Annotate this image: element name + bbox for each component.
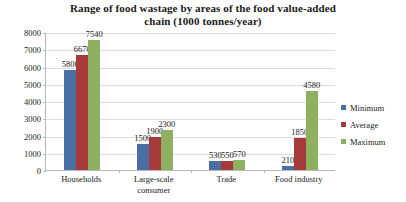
legend-swatch-icon <box>341 122 346 127</box>
y-axis-tick <box>43 154 46 155</box>
bar-value-label: 570 <box>222 149 256 159</box>
y-axis-tick <box>43 68 46 69</box>
y-axis-tick <box>43 137 46 138</box>
y-axis-tick-label: 8000 <box>3 28 41 38</box>
legend-swatch-icon <box>341 105 346 110</box>
x-axis-label-line: Households <box>61 174 101 184</box>
bar-average <box>294 138 306 170</box>
legend-label: Maximum <box>350 137 385 147</box>
x-axis-label-line: Large-scale <box>134 174 173 184</box>
y-axis-tick <box>43 85 46 86</box>
bar-minimum <box>209 161 221 170</box>
x-axis-label-line: consumer <box>137 185 170 195</box>
x-axis-tick <box>119 170 120 173</box>
bar-value-label: 2300 <box>150 119 184 129</box>
x-axis-label-line: Trade <box>216 174 236 184</box>
y-axis-tick-label: 3000 <box>3 114 41 124</box>
bar-average <box>149 137 161 170</box>
bar-minimum <box>64 70 76 170</box>
y-axis-tick <box>43 119 46 120</box>
bar-value-label: 4580 <box>295 80 329 90</box>
legend-swatch-icon <box>341 139 346 144</box>
chart-legend: MinimumAverageMaximum <box>341 101 403 152</box>
chart-title-line-2: chain (1000 tonnes/year) <box>144 15 261 27</box>
bar-average <box>221 161 233 170</box>
y-axis-tick-label: 7000 <box>3 45 41 55</box>
bar-minimum <box>282 166 294 170</box>
x-axis-category-label: Food industry <box>261 174 337 185</box>
bar-maximum <box>161 130 173 170</box>
y-axis-tick <box>43 171 46 172</box>
y-axis-tick <box>43 102 46 103</box>
bar-maximum <box>306 91 318 170</box>
legend-item[interactable]: Minimum <box>341 101 403 114</box>
plot-area: 5800667075401500190023005305505702101850… <box>45 33 335 171</box>
legend-item[interactable]: Maximum <box>341 135 403 148</box>
bar-group: 150019002300 <box>137 33 173 170</box>
legend-label: Average <box>350 120 378 130</box>
x-axis-category-label: Households <box>43 174 119 185</box>
y-axis-tick <box>43 50 46 51</box>
x-axis-category-label: Large-scaleconsumer <box>116 174 192 195</box>
y-axis-tick-label: 6000 <box>3 63 41 73</box>
legend-label: Minimum <box>350 103 384 113</box>
bar-chart-figure: Range of food wastage by areas of the fo… <box>0 0 406 203</box>
y-axis-tick-label: 5000 <box>3 80 41 90</box>
x-axis-tick <box>264 170 265 173</box>
chart-title-line-1: Range of food wastage by areas of the fo… <box>70 2 336 14</box>
y-axis-tick <box>43 33 46 34</box>
y-axis-tick-label: 0 <box>3 166 41 176</box>
bar-value-label: 7540 <box>77 29 111 39</box>
x-axis-category-label: Trade <box>188 174 264 185</box>
y-axis-tick-label: 1000 <box>3 149 41 159</box>
bar-minimum <box>137 144 149 170</box>
bar-maximum <box>233 160 245 170</box>
bar-group: 21018504580 <box>282 33 318 170</box>
y-axis-tick-label: 4000 <box>3 97 41 107</box>
bar-group: 530550570 <box>209 33 245 170</box>
x-axis-category-labels: HouseholdsLarge-scaleconsumerTradeFood i… <box>45 174 335 202</box>
y-axis-tick-label: 2000 <box>3 132 41 142</box>
x-axis-label-line: Food industry <box>275 174 322 184</box>
x-axis-tick <box>191 170 192 173</box>
bar-average <box>76 55 88 170</box>
bar-group: 580066707540 <box>64 33 100 170</box>
bar-maximum <box>88 40 100 170</box>
legend-item[interactable]: Average <box>341 118 403 131</box>
chart-title: Range of food wastage by areas of the fo… <box>18 2 388 27</box>
y-axis: 010002000300040005000600070008000 <box>0 33 41 171</box>
